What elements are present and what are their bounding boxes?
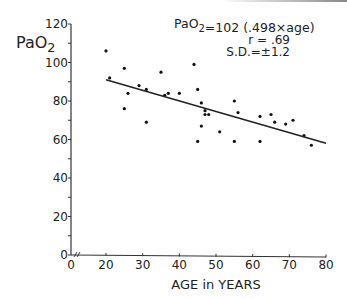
x-tick-label: 60 (245, 258, 260, 272)
data-point (310, 144, 313, 147)
data-point (200, 101, 203, 104)
y-tick-label: 40 (53, 171, 68, 185)
data-points (104, 49, 313, 147)
data-point (258, 140, 261, 143)
equation-annotation: PaO2=102 (.498×age) (174, 16, 315, 35)
y-tick-label: 20 (53, 210, 68, 224)
x-tick-label: 70 (282, 258, 297, 272)
data-point (123, 67, 126, 70)
data-point (178, 92, 181, 95)
data-point (167, 92, 170, 95)
y-tick-label: 60 (53, 133, 68, 147)
data-point (269, 113, 272, 116)
data-point (233, 99, 236, 102)
scatter-chart: 020406080100120020304050607080 PaO2 AGE … (0, 0, 347, 299)
data-point (218, 130, 221, 133)
data-point (192, 63, 195, 66)
data-point (126, 92, 129, 95)
y-tick-label: 80 (53, 94, 68, 108)
x-tick-label: 30 (135, 258, 150, 272)
data-point (200, 124, 203, 127)
y-axis-label: PaO2 (16, 33, 55, 55)
data-point (273, 121, 276, 124)
data-point (258, 115, 261, 118)
regression-line (106, 80, 326, 144)
data-point (104, 49, 107, 52)
data-point (236, 111, 239, 114)
data-point (108, 76, 111, 79)
y-tick-label: 100 (45, 56, 68, 70)
data-point (145, 121, 148, 124)
data-point (123, 107, 126, 110)
data-point (159, 71, 162, 74)
data-point (291, 119, 294, 122)
x-tick-label: 50 (208, 258, 223, 272)
axes: 020406080100120020304050607080 (45, 17, 334, 272)
data-point (137, 84, 140, 87)
data-point (196, 88, 199, 91)
y-tick-label: 120 (45, 17, 68, 31)
data-point (284, 123, 287, 126)
data-point (203, 113, 206, 116)
x-tick-label: 40 (172, 258, 187, 272)
data-point (233, 140, 236, 143)
data-point (196, 140, 199, 143)
data-point (207, 113, 210, 116)
x-axis-label: AGE in YEARS (171, 277, 260, 292)
x-tick-label: 80 (318, 258, 333, 272)
sd-annotation: S.D.=±1.2 (226, 45, 290, 59)
x-tick-label: 20 (98, 258, 113, 272)
x-tick-label: 0 (67, 258, 75, 272)
